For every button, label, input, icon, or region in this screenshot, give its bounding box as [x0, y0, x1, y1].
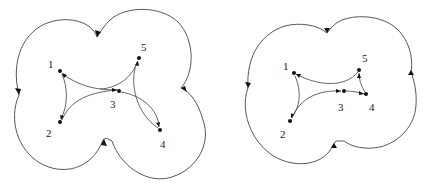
right-outer-arrow-bottom	[331, 143, 337, 148]
right-label-5: 5	[362, 52, 368, 64]
left-label-3: 3	[110, 98, 116, 110]
right-outer-arrow-right	[408, 70, 414, 75]
left-edge-2-3	[62, 90, 117, 120]
left-label-4: 4	[160, 138, 166, 150]
left-outer-boundary	[15, 9, 206, 178]
right-node-3	[342, 89, 346, 93]
left-outer-arrow-left	[15, 88, 21, 95]
left-edge-1-2	[61, 74, 66, 119]
right-label-1: 1	[283, 60, 289, 72]
right-label-3: 3	[338, 101, 344, 113]
left-edge-3-5	[100, 61, 138, 89]
right-diagram: 1 2 3 4 5	[245, 17, 416, 164]
left-arrow-into-3	[112, 88, 117, 92]
right-label-2: 2	[280, 128, 286, 140]
right-edge-5-1	[296, 72, 358, 84]
right-outer-arrow-left	[245, 82, 251, 88]
right-arrow-into-4	[359, 91, 364, 95]
right-outer-boundary	[245, 17, 416, 164]
right-node-4	[364, 92, 368, 96]
right-node-5	[357, 68, 361, 72]
diagram-canvas: 1 2 3 4 5	[0, 0, 425, 188]
left-node-3	[117, 89, 121, 93]
left-label-2: 2	[46, 127, 52, 139]
right-arrow-into-3	[336, 89, 341, 93]
right-node-2	[288, 119, 292, 123]
left-node-5	[137, 56, 141, 60]
right-node-1	[292, 71, 296, 75]
left-edge-5-4	[134, 62, 158, 128]
left-node-2	[58, 120, 62, 124]
left-node-1	[58, 69, 62, 73]
left-label-5: 5	[141, 41, 147, 53]
left-label-1: 1	[48, 58, 54, 70]
left-diagram: 1 2 3 4 5	[15, 9, 206, 178]
right-arrow-into-5	[357, 73, 361, 78]
left-edge-3-4	[121, 92, 159, 127]
left-node-4	[158, 128, 162, 132]
right-label-4: 4	[369, 101, 375, 113]
